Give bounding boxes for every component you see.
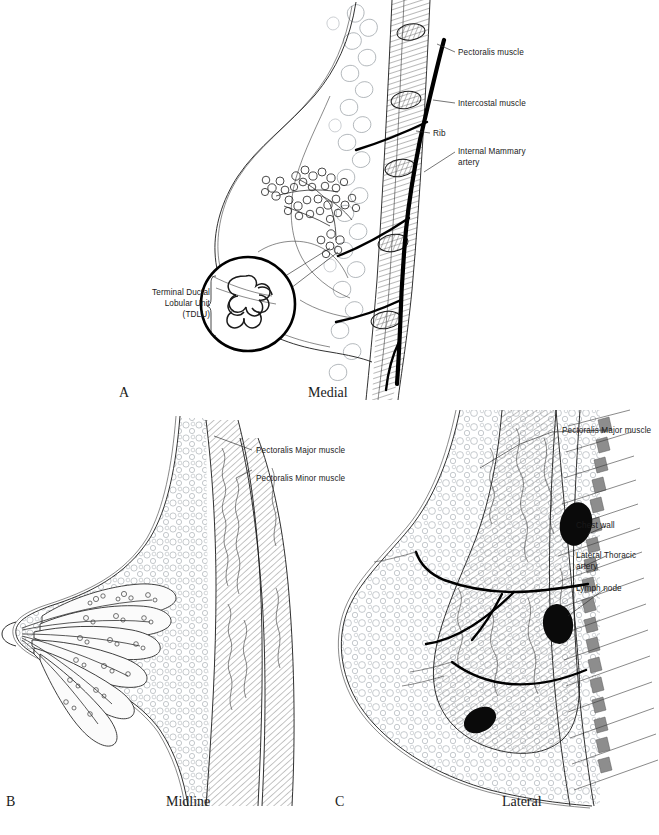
panel-b-illustration [0,408,330,808]
label-internal-mammary-artery-line2: artery [458,157,480,168]
label-tdlu-line2: Lobular Unit [110,298,210,309]
panel-letter-c: C [335,794,344,810]
label-lateral-thoracic-artery-line1: Lateral Thoracic [576,550,636,561]
label-internal-mammary-artery-line1: Internal Mammary [458,146,526,157]
panel-a-medial-view: Pectoralis muscle Intercostal muscle Rib… [0,0,659,400]
label-rib: Rib [433,128,446,139]
label-intercostal-muscle: Intercostal muscle [458,98,526,109]
caption-medial: Medial [308,385,348,401]
label-pectoralis-major-muscle-c: Pectoralis Major muscle [562,425,651,436]
panel-b-midline-view: Pectoralis Major muscle Pectoralis Minor… [0,408,330,808]
panel-c-lateral-view: Pectoralis Major muscle Chest wall Later… [330,408,659,808]
nipple-b [2,622,16,646]
panel-c-illustration [330,408,659,808]
label-lymph-node: Lymph node [576,583,622,594]
label-chest-wall: Chest wall [576,520,615,531]
panel-letter-a: A [119,385,129,401]
tdlu-magnifier-inset [201,248,338,351]
label-pectoralis-muscle: Pectoralis muscle [458,47,524,58]
caption-lateral: Lateral [502,794,542,810]
panel-letter-b: B [6,794,15,810]
panel-a-illustration [0,0,659,400]
label-lateral-thoracic-artery-line2: artery [576,561,598,572]
label-tdlu-line1: Terminal Ductal [110,287,210,298]
label-tdlu-line3: (TDLU) [110,309,210,320]
breast-anatomy-figure: Pectoralis muscle Intercostal muscle Rib… [0,0,659,835]
fat-tissue-chest [324,5,377,381]
caption-midline: Midline [166,794,210,810]
